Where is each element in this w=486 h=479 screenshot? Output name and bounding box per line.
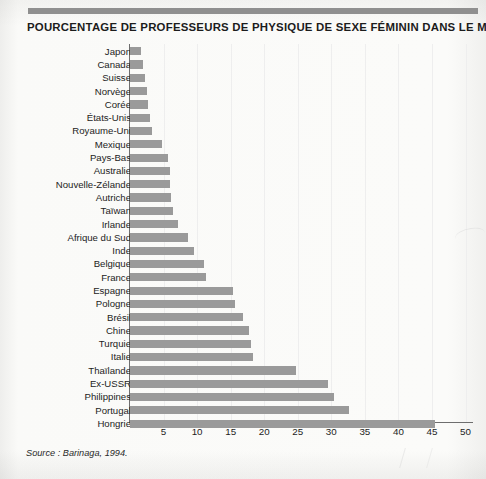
bar-row: Taïwan bbox=[0, 205, 486, 218]
category-label: Chine bbox=[0, 326, 131, 336]
category-label: Canada bbox=[0, 60, 131, 70]
bar-row: Royaume-Uni bbox=[0, 125, 486, 138]
bar bbox=[130, 353, 253, 361]
bar bbox=[130, 366, 296, 374]
bar-row: Pologne bbox=[0, 298, 486, 311]
bar-row: Portugal bbox=[0, 404, 486, 417]
category-label: Australie bbox=[0, 166, 131, 176]
bar-row: Suisse bbox=[0, 72, 486, 85]
bar bbox=[130, 74, 145, 82]
bar-row: Afrique du Sud bbox=[0, 231, 486, 244]
bar bbox=[130, 180, 170, 188]
category-label: Portugal bbox=[0, 406, 131, 416]
chart-page: POURCENTAGE DE PROFESSEURS DE PHYSIQUE D… bbox=[0, 0, 486, 479]
bar-row: Thaïlande bbox=[0, 364, 486, 377]
bar-row: Australie bbox=[0, 165, 486, 178]
bar-row: Italie bbox=[0, 351, 486, 364]
bar-row: Philippines bbox=[0, 391, 486, 404]
bar bbox=[130, 154, 168, 162]
bar bbox=[130, 233, 188, 241]
category-label: Espagne bbox=[0, 286, 131, 296]
category-label: Norvège bbox=[0, 87, 131, 97]
category-label: États-Unis bbox=[0, 113, 131, 123]
bar-row: Pays-Bas bbox=[0, 151, 486, 164]
category-label: Mexique bbox=[0, 140, 131, 150]
top-rule-divider bbox=[28, 8, 478, 14]
tick-label-15: 15 bbox=[225, 426, 236, 437]
category-label: Autriche bbox=[0, 193, 131, 203]
category-label: Turquie bbox=[0, 339, 131, 349]
bar bbox=[130, 220, 178, 228]
bar-row: Canada bbox=[0, 58, 486, 71]
tick-label-45: 45 bbox=[426, 426, 437, 437]
bar bbox=[130, 326, 249, 334]
bar-row: Belgique bbox=[0, 258, 486, 271]
source-note: Source : Barinaga, 1994. bbox=[26, 448, 128, 458]
bar-row: Chine bbox=[0, 324, 486, 337]
bar bbox=[130, 260, 204, 268]
category-label: Irlande bbox=[0, 220, 131, 230]
bar bbox=[130, 287, 233, 295]
bar-row: Ex-USSR bbox=[0, 377, 486, 390]
bar bbox=[130, 313, 243, 321]
bar-row: Japon bbox=[0, 45, 486, 58]
category-label: Inde bbox=[0, 246, 131, 256]
bar bbox=[130, 193, 171, 201]
bar bbox=[130, 300, 235, 308]
plot-area: JaponCanadaSuisseNorvègeCoréeÉtats-UnisR… bbox=[0, 41, 486, 424]
tick-label-5: 5 bbox=[161, 426, 166, 437]
tick-label-40: 40 bbox=[393, 426, 404, 437]
bar bbox=[130, 393, 334, 401]
bar bbox=[130, 380, 328, 388]
bar-row: Nouvelle-Zélande bbox=[0, 178, 486, 191]
tick-label-10: 10 bbox=[192, 426, 203, 437]
category-label: Japon bbox=[0, 47, 131, 57]
tick-label-20: 20 bbox=[259, 426, 270, 437]
category-label: Belgique bbox=[0, 259, 131, 269]
bar-row: Autriche bbox=[0, 191, 486, 204]
bar-row: États-Unis bbox=[0, 111, 486, 124]
bar bbox=[130, 167, 170, 175]
category-label: France bbox=[0, 273, 131, 283]
tick-label-35: 35 bbox=[359, 426, 370, 437]
scan-artifact-bottom bbox=[399, 448, 433, 468]
bar-row: Inde bbox=[0, 244, 486, 257]
tick-label-30: 30 bbox=[326, 426, 337, 437]
category-label: Suisse bbox=[0, 73, 131, 83]
bar bbox=[130, 114, 150, 122]
bar bbox=[130, 127, 152, 135]
category-label: Nouvelle-Zélande bbox=[0, 180, 131, 190]
bar bbox=[130, 60, 143, 68]
bar-row: Norvège bbox=[0, 85, 486, 98]
bar bbox=[130, 207, 173, 215]
category-label: Italie bbox=[0, 352, 131, 362]
category-label: Thaïlande bbox=[0, 366, 131, 376]
bar-rows: JaponCanadaSuisseNorvègeCoréeÉtats-UnisR… bbox=[0, 45, 486, 431]
chart-title: POURCENTAGE DE PROFESSEURS DE PHYSIQUE D… bbox=[27, 21, 471, 33]
bar-row: Espagne bbox=[0, 284, 486, 297]
bar bbox=[130, 140, 162, 148]
category-label: Pays-Bas bbox=[0, 153, 131, 163]
x-axis-tick-labels: 5101520253035404550 bbox=[0, 426, 486, 442]
bar bbox=[130, 47, 141, 55]
category-label: Pologne bbox=[0, 299, 131, 309]
category-label: Philippines bbox=[0, 392, 131, 402]
category-label: Ex-USSR bbox=[0, 379, 131, 389]
category-label: Taïwan bbox=[0, 206, 131, 216]
bar bbox=[130, 273, 206, 281]
bar-row: Mexique bbox=[0, 138, 486, 151]
bar-row: Corée bbox=[0, 98, 486, 111]
bar-row: France bbox=[0, 271, 486, 284]
category-label: Afrique du Sud bbox=[0, 233, 131, 243]
bar-row: Turquie bbox=[0, 338, 486, 351]
bar bbox=[130, 340, 251, 348]
tick-label-25: 25 bbox=[292, 426, 303, 437]
bar-row: Brésil bbox=[0, 311, 486, 324]
bar bbox=[130, 406, 349, 414]
category-label: Corée bbox=[0, 100, 131, 110]
tick-label-50: 50 bbox=[460, 426, 471, 437]
bar bbox=[130, 100, 148, 108]
bar-row: Irlande bbox=[0, 218, 486, 231]
category-label: Royaume-Uni bbox=[0, 126, 131, 136]
bar bbox=[130, 87, 147, 95]
